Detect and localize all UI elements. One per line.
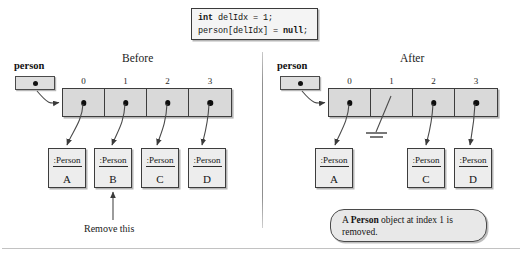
code-line-2-end: ; [303,26,308,36]
before-person-type-1: :Person [99,155,128,167]
after-array-cell-2: 2 [413,89,455,116]
before-person-type-0: :Person [53,155,82,167]
before-index-label-3: 3 [208,76,213,86]
after-index-label-1: 1 [389,76,394,86]
before-index-label-1: 1 [123,76,128,86]
after-index-label-2: 2 [431,76,436,86]
before-panel-title: Before [122,52,153,64]
after-person-object-1: :Person C [407,148,445,188]
before-person-value-2: C [142,173,178,185]
after-array-cell-3: 3 [455,89,497,116]
callout-text-part1: A [342,215,351,225]
code-line-1-rest: delIdx = 1; [213,13,273,23]
before-cell-dot-0 [81,100,87,106]
after-person-type-2: :Person [459,155,488,167]
callout-text-bold: Person [351,215,379,225]
before-person-value-3: D [189,173,225,185]
before-person-type-2: :Person [146,155,175,167]
after-person-type-0: :Person [320,155,349,167]
code-line-1: int delIdx = 1; [198,12,317,25]
before-array-cell-2: 2 [147,89,189,116]
after-person-value-2: D [455,173,491,185]
before-person-reference-box [15,76,55,90]
panel-divider [262,52,263,228]
before-array-cell-0: 0 [63,89,105,116]
removal-callout: A Person object at index 1 is removed. [330,209,487,242]
after-person-value-0: A [316,173,352,185]
array-null-assignment-figure: int delIdx = 1; person[delIdx] = null; B… [0,0,522,261]
before-person-object-3: :Person D [188,148,226,188]
bottom-rule [2,248,520,249]
after-person-reference-box [280,76,320,90]
after-person-type-1: :Person [412,155,441,167]
after-cell-dot-3 [473,100,479,106]
after-array-cell-1-null: 1 [371,89,413,116]
after-person-object-0: :Person A [315,148,353,188]
before-array-cell-3: 3 [189,89,231,116]
remove-this-annotation: Remove this [84,223,134,234]
after-person-reference-dot [298,81,303,86]
before-person-object-1: :Person B [94,148,132,188]
code-keyword-int: int [198,13,213,23]
after-array-cell-0: 0 [329,89,371,116]
before-variable-label: person [14,60,44,71]
after-index-label-0: 0 [347,76,352,86]
before-person-value-1: B [95,173,131,185]
code-line-2: person[delIdx] = null; [198,25,317,38]
before-cell-dot-2 [165,100,171,106]
after-panel-title: After [400,52,424,64]
code-keyword-null: null [283,26,303,36]
after-person-value-1: C [408,173,444,185]
after-index-label-3: 3 [474,76,479,86]
before-cell-dot-3 [207,100,213,106]
code-snippet-box: int delIdx = 1; person[delIdx] = null; [191,8,318,40]
before-person-type-3: :Person [193,155,222,167]
before-array: 0 1 2 3 [62,88,232,117]
before-person-object-2: :Person C [141,148,179,188]
before-reference-arrow [37,91,59,103]
after-array: 0 1 2 3 [328,88,498,117]
after-cell-dot-2 [431,100,437,106]
before-person-object-0: :Person A [48,148,86,188]
code-line-2-start: person[delIdx] = [198,26,283,36]
before-array-cell-1: 1 [105,89,147,116]
before-person-value-0: A [49,173,85,185]
before-person-reference-dot [33,81,38,86]
after-variable-label: person [277,60,307,71]
after-person-object-2: :Person D [454,148,492,188]
after-reference-arrow [302,91,325,103]
before-index-label-0: 0 [81,76,86,86]
before-cell-dot-1 [123,100,129,106]
before-index-label-2: 2 [165,76,170,86]
after-cell-dot-0 [347,100,353,106]
